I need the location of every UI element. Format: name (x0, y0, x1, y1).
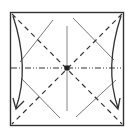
center-marker (65, 66, 70, 71)
diagram-canvas (0, 0, 125, 134)
